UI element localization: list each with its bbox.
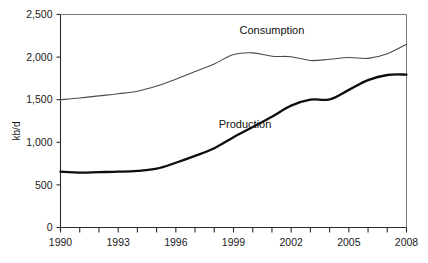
series-line-consumption (61, 44, 407, 99)
x-tick-label: 2005 (337, 236, 361, 248)
y-tick-label: 2,000 (26, 51, 52, 63)
y-tick-label: 1,500 (26, 93, 52, 105)
x-tick-label: 2002 (279, 236, 303, 248)
annotation-group: ConsumptionProduction (219, 24, 305, 130)
x-tick-label: 1996 (164, 236, 188, 248)
y-axis-title: kb/d (11, 122, 22, 141)
y-tick-label: 500 (35, 179, 53, 191)
x-tick-label: 2008 (395, 236, 419, 248)
y-axis-title-group: kb/d (11, 122, 22, 141)
series-group (61, 44, 407, 172)
chart-container: 05001,0001,5002,0002,500 199019931996199… (0, 0, 428, 263)
x-tick-label: 1993 (106, 236, 130, 248)
line-chart: 05001,0001,5002,0002,500 199019931996199… (0, 0, 428, 263)
y-tick-group: 05001,0001,5002,0002,500 (26, 8, 60, 233)
series-annotation-label: Production (219, 118, 272, 130)
y-tick-label: 1,000 (26, 136, 52, 148)
x-tick-label: 1990 (49, 236, 73, 248)
x-tick-group: 1990199319961999200220052008 (49, 228, 419, 248)
y-tick-label: 0 (47, 221, 53, 233)
x-tick-label: 1999 (222, 236, 246, 248)
series-annotation-label: Consumption (240, 24, 305, 36)
y-tick-label: 2,500 (26, 8, 52, 20)
